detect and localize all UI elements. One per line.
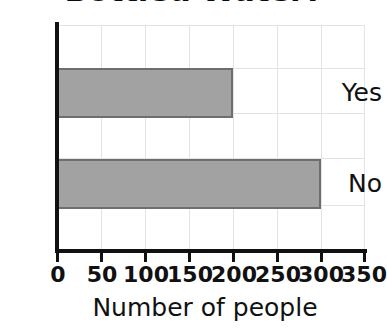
x-axis-tick-label-0: 0 <box>50 262 65 288</box>
x-axis-tick-label-50: 50 <box>87 262 118 288</box>
x-axis-tick <box>144 253 147 262</box>
x-axis-tick <box>320 253 323 262</box>
x-axis-tick <box>232 253 235 262</box>
gridline-vertical <box>189 25 190 250</box>
chart-title: Bottled Water? <box>0 0 387 8</box>
x-axis-title: Number of people <box>40 293 370 323</box>
x-axis-tick <box>188 253 191 262</box>
x-axis-tick-label-250: 250 <box>255 262 301 288</box>
x-axis-tick <box>276 253 279 262</box>
y-axis-line <box>55 22 59 253</box>
x-axis-tick <box>363 253 366 262</box>
x-axis-tick <box>56 253 59 262</box>
x-axis-tick-label-100: 100 <box>123 262 169 288</box>
x-axis-tick-label-350: 350 <box>341 262 387 288</box>
category-label-no: No <box>332 170 387 198</box>
x-axis-tick <box>100 253 103 262</box>
gridline-vertical <box>364 25 365 250</box>
x-axis-tick-label-200: 200 <box>211 262 257 288</box>
x-axis-tick-label-300: 300 <box>298 262 344 288</box>
bar-no[interactable] <box>57 159 321 209</box>
category-label-yes: Yes <box>332 79 387 107</box>
gridline-vertical <box>321 25 322 250</box>
gridline-vertical <box>145 25 146 250</box>
plot-area <box>57 25 365 250</box>
x-axis-tick-label-150: 150 <box>167 262 213 288</box>
gridline-horizontal <box>57 25 365 26</box>
gridline-vertical <box>233 25 234 250</box>
gridline-vertical <box>101 25 102 250</box>
bar-chart-figure: Bottled Water? 0 50 100 150 200 250 <box>0 0 387 333</box>
gridline-vertical <box>277 25 278 250</box>
bar-yes[interactable] <box>57 68 233 118</box>
